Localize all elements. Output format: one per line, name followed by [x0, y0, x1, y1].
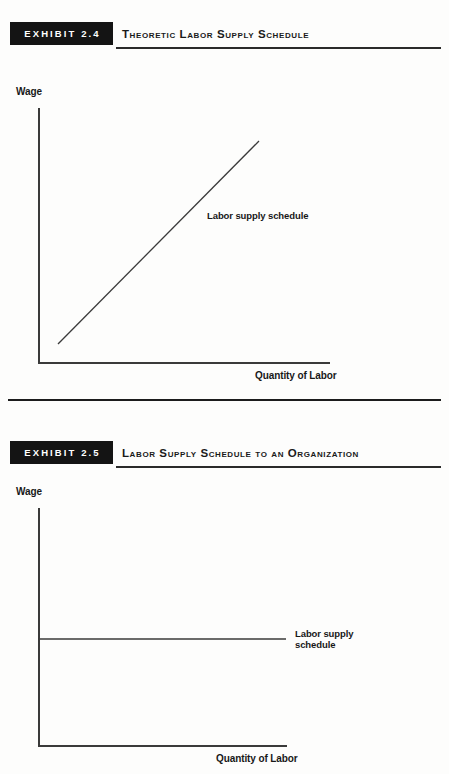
textbook-page: EXHIBIT 2.4 Theoretic Labor Supply Sched…	[0, 0, 449, 774]
chart2-plot-area	[0, 0, 449, 774]
chart2-series-label-line1: Labor supply	[295, 628, 353, 639]
chart2-x-axis-label: Quantity of Labor	[216, 753, 298, 764]
chart2-series-label-line2: schedule	[295, 639, 335, 650]
chart-labor-supply-schedule-to-an-organization: Wage Labor supply schedule Quantity of L…	[0, 0, 449, 774]
chart2-series-label: Labor supply schedule	[295, 628, 353, 650]
